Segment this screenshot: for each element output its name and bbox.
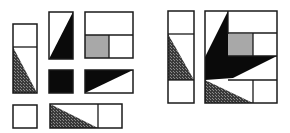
piece-black-triangle-top	[85, 70, 133, 93]
assembled-tall-piece	[168, 11, 194, 103]
gray-region	[228, 34, 253, 56]
right-panel-assembled	[168, 11, 277, 103]
tall-piece-hatched	[13, 24, 37, 93]
gray-region	[85, 35, 109, 58]
piece-gray-square	[85, 12, 133, 58]
piece-black-square	[49, 70, 73, 93]
piece-black-triangle-right	[49, 12, 73, 59]
piece-bottom-hatched	[50, 104, 122, 128]
piece-small-square	[13, 105, 37, 128]
diagram-canvas	[0, 0, 290, 133]
assembled-square	[205, 11, 277, 103]
left-panel-pieces	[13, 12, 133, 128]
black-region	[49, 70, 73, 93]
